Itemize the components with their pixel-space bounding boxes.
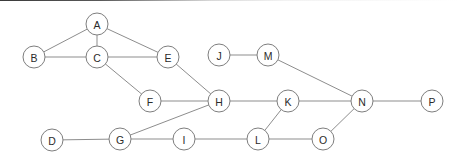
edges-layer: [44, 29, 421, 140]
graph-node-d[interactable]: D: [41, 129, 63, 151]
node-circle-h[interactable]: [208, 90, 230, 112]
node-circle-o[interactable]: [312, 128, 334, 150]
node-circle-g[interactable]: [109, 128, 131, 150]
node-circle-j[interactable]: [208, 44, 230, 66]
graph-svg: ABCEJMFHKNPDGILO: [0, 0, 458, 166]
nodes-layer: ABCEJMFHKNPDGILO: [23, 13, 443, 151]
graph-edge-h-g: [130, 105, 208, 135]
graph-edge-c-f: [105, 64, 141, 94]
node-circle-k[interactable]: [277, 90, 299, 112]
graph-node-p[interactable]: P: [421, 90, 443, 112]
node-circle-a[interactable]: [86, 13, 108, 35]
node-circle-f[interactable]: [139, 90, 161, 112]
graph-edge-e-h: [176, 64, 210, 94]
graph-node-e[interactable]: E: [157, 46, 179, 68]
graph-node-g[interactable]: G: [109, 128, 131, 150]
graph-node-i[interactable]: I: [173, 128, 195, 150]
graph-node-o[interactable]: O: [312, 128, 334, 150]
graph-node-k[interactable]: K: [277, 90, 299, 112]
graph-edge-a-b: [44, 29, 88, 52]
graph-node-f[interactable]: F: [139, 90, 161, 112]
graph-diagram-canvas: ABCEJMFHKNPDGILO: [0, 0, 458, 166]
node-circle-l[interactable]: [247, 128, 269, 150]
graph-edge-n-o: [331, 109, 354, 132]
graph-node-b[interactable]: B: [23, 46, 45, 68]
node-circle-i[interactable]: [173, 128, 195, 150]
graph-edge-d-g: [63, 139, 109, 140]
graph-node-l[interactable]: L: [247, 128, 269, 150]
node-circle-c[interactable]: [86, 46, 108, 68]
graph-node-j[interactable]: J: [208, 44, 230, 66]
graph-node-m[interactable]: M: [257, 44, 279, 66]
node-circle-m[interactable]: [257, 44, 279, 66]
node-circle-d[interactable]: [41, 129, 63, 151]
graph-node-h[interactable]: H: [208, 90, 230, 112]
node-circle-e[interactable]: [157, 46, 179, 68]
node-circle-b[interactable]: [23, 46, 45, 68]
graph-node-a[interactable]: A: [86, 13, 108, 35]
graph-edge-a-e: [107, 29, 158, 53]
graph-edge-k-l: [265, 110, 281, 131]
graph-node-n[interactable]: N: [351, 90, 373, 112]
node-circle-p[interactable]: [421, 90, 443, 112]
graph-node-c[interactable]: C: [86, 46, 108, 68]
node-circle-n[interactable]: [351, 90, 373, 112]
